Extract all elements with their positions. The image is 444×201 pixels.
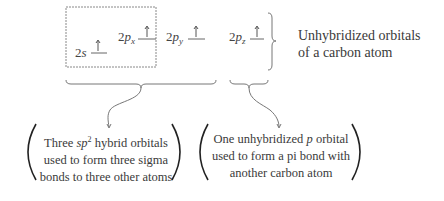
left-paren-pi-box bbox=[200, 124, 208, 180]
unhybridized-orbitals-caption: Unhybridized orbitals of a carbon atom bbox=[298, 27, 420, 61]
up-arrow-icon bbox=[145, 26, 149, 37]
up-arrow-icon bbox=[194, 26, 198, 37]
connector-arrow-pz bbox=[249, 88, 279, 127]
up-arrow-icon bbox=[255, 26, 259, 37]
unhybridized-p-description: One unhybridized p orbital used to form … bbox=[208, 131, 354, 182]
bottom-brace-pz bbox=[230, 80, 268, 88]
bottom-brace-hybrid bbox=[66, 80, 216, 88]
right-curly-brace bbox=[268, 13, 276, 70]
sp2-hybrid-description: Three sp2 hybrid orbitals used to form t… bbox=[38, 131, 174, 186]
orbital-label-2s: 2s bbox=[75, 45, 87, 61]
sp2-line1: Three sp2 hybrid orbitals bbox=[38, 131, 174, 152]
orbital-label-2py: 2py bbox=[166, 29, 183, 46]
left-paren-hybrid-box bbox=[28, 124, 36, 180]
p-line1: One unhybridized p orbital bbox=[208, 131, 354, 148]
connector-arrow-hybrid bbox=[108, 88, 141, 127]
up-arrow-icon bbox=[96, 40, 100, 51]
orbital-label-2pz: 2pz bbox=[229, 29, 246, 46]
orbital-label-2px: 2px bbox=[118, 29, 135, 46]
